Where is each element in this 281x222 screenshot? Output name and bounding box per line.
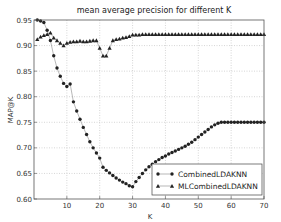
circle-point xyxy=(52,54,55,57)
x-tick-label: 60 xyxy=(227,202,236,210)
circle-point xyxy=(114,176,117,179)
circle-point xyxy=(82,126,85,129)
triangle-point xyxy=(52,36,56,40)
x-tick-label: 10 xyxy=(62,202,71,210)
circle-point xyxy=(62,82,65,85)
circle-point xyxy=(111,174,114,177)
legend-label: MLCombinedLDAKNN xyxy=(178,182,258,191)
circle-point xyxy=(190,141,193,144)
circle-point xyxy=(160,156,163,159)
circle-point xyxy=(157,158,160,161)
y-tick-label: 0.75 xyxy=(16,119,32,127)
circle-point xyxy=(45,29,48,32)
x-tick-label: 30 xyxy=(128,202,137,210)
series-layer xyxy=(35,18,266,188)
triangle-point xyxy=(107,46,111,50)
y-axis-label: MAP@K xyxy=(7,96,15,123)
circle-point xyxy=(246,121,249,124)
circle-point xyxy=(164,154,167,157)
y-tick-label: 0.65 xyxy=(16,170,32,178)
circle-point xyxy=(42,21,45,24)
circle-point xyxy=(200,133,203,136)
circle-point xyxy=(213,123,216,126)
y-tick-label: 0.95 xyxy=(16,17,32,25)
circle-point xyxy=(256,121,259,124)
circle-point xyxy=(141,172,144,175)
circle-point xyxy=(233,121,236,124)
circle-point xyxy=(229,121,232,124)
triangle-point xyxy=(58,41,62,45)
triangle-point xyxy=(78,39,82,43)
circle-point xyxy=(187,143,190,146)
x-tick-label: 50 xyxy=(194,202,203,210)
circle-point xyxy=(91,146,94,149)
circle-point xyxy=(203,130,206,133)
circle-point xyxy=(170,151,173,154)
legend-marker xyxy=(156,172,159,175)
circle-point xyxy=(137,176,140,179)
circle-point xyxy=(252,121,255,124)
circle-point xyxy=(85,133,88,136)
circle-point xyxy=(59,75,62,78)
circle-point xyxy=(75,109,78,112)
triangle-point xyxy=(98,46,102,50)
circle-point xyxy=(216,122,219,125)
x-tick-label: 70 xyxy=(260,202,269,210)
y-tick-label: 0.60 xyxy=(16,196,32,204)
circle-point xyxy=(177,148,180,151)
legend-label: CombinedLDAKNN xyxy=(178,170,247,179)
circle-point xyxy=(243,121,246,124)
circle-point xyxy=(108,171,111,174)
circle-point xyxy=(193,138,196,141)
circle-point xyxy=(154,160,157,163)
circle-point xyxy=(220,121,223,124)
legend-marker xyxy=(170,172,173,175)
circle-point xyxy=(72,100,75,103)
y-tick-label: 0.70 xyxy=(16,144,32,152)
circle-point xyxy=(183,145,186,148)
circle-point xyxy=(131,185,134,188)
circle-point xyxy=(239,121,242,124)
circle-point xyxy=(259,121,262,124)
circle-point xyxy=(206,128,209,131)
circle-point xyxy=(105,169,108,172)
circle-point xyxy=(223,121,226,124)
circle-point xyxy=(134,180,137,183)
series-line xyxy=(37,20,264,187)
circle-point xyxy=(128,184,131,187)
circle-point xyxy=(167,152,170,155)
circle-point xyxy=(101,166,104,169)
circle-point xyxy=(197,135,200,138)
circle-point xyxy=(78,118,81,121)
circle-point xyxy=(226,121,229,124)
circle-point xyxy=(68,82,71,85)
circle-point xyxy=(98,156,101,159)
circle-point xyxy=(124,182,127,185)
circle-point xyxy=(65,85,68,88)
y-tick-label: 0.90 xyxy=(16,42,32,50)
x-tick-label: 20 xyxy=(95,202,104,210)
circle-point xyxy=(55,66,58,69)
circle-point xyxy=(49,39,52,42)
circle-point xyxy=(174,149,177,152)
triangle-point xyxy=(48,31,52,35)
circle-point xyxy=(210,125,213,128)
series-MLCombinedLDAKNN xyxy=(35,31,266,58)
legend: CombinedLDAKNNMLCombinedLDAKNN xyxy=(152,164,262,195)
circle-point xyxy=(180,146,183,149)
chart-title: mean average precision for different K xyxy=(77,6,232,15)
circle-point xyxy=(121,180,124,183)
circle-point xyxy=(144,168,147,171)
chart: mean average precision for different K 1… xyxy=(0,0,281,222)
y-tick-label: 0.80 xyxy=(16,93,32,101)
x-tick-label: 40 xyxy=(161,202,170,210)
circle-point xyxy=(88,140,91,143)
circle-point xyxy=(95,151,98,154)
y-tick-label: 0.85 xyxy=(16,68,32,76)
circle-point xyxy=(118,178,121,181)
series-line xyxy=(37,33,264,56)
x-axis-label: K xyxy=(148,213,153,221)
circle-point xyxy=(236,121,239,124)
triangle-point xyxy=(55,38,59,42)
circle-point xyxy=(147,165,150,168)
